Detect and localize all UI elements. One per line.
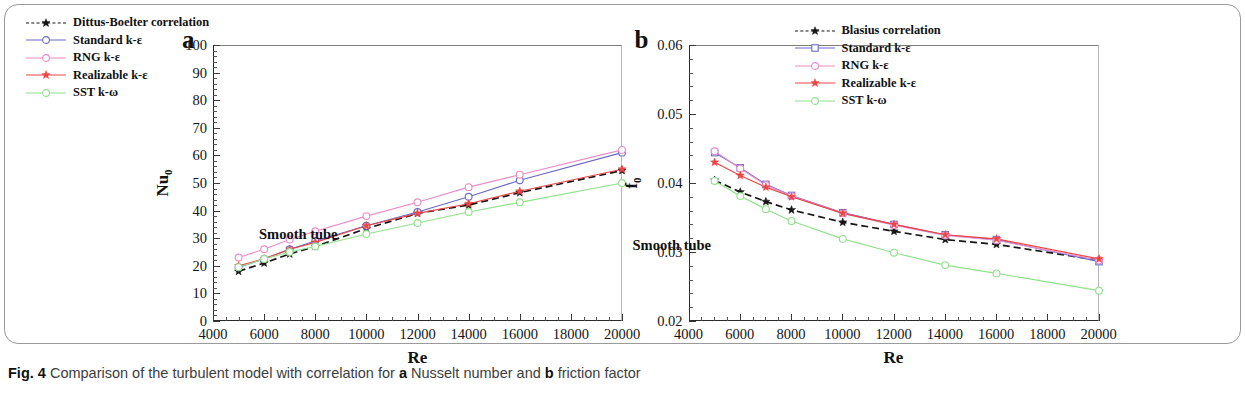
legend-marker-icon	[41, 87, 52, 98]
legend-item: Realizable k-ε	[795, 75, 941, 93]
data-point	[838, 218, 846, 226]
data-point	[516, 171, 523, 178]
legend-label: Standard k-ε	[842, 41, 911, 56]
figure-panels: a 0102030405060708090100 400060008000100…	[4, 4, 1241, 344]
x-tick-label: 8000	[777, 326, 806, 343]
x-tick-label: 20000	[1080, 326, 1116, 343]
data-point	[43, 37, 50, 44]
legend-item: RNG k-ε	[26, 49, 209, 67]
y-tick-label: 0	[200, 313, 207, 330]
data-point	[762, 206, 769, 213]
legend-a: Dittus-Boelter correlationStandard k-εRN…	[26, 14, 209, 102]
y-tick-label: 50	[193, 175, 208, 192]
data-point	[890, 249, 897, 256]
data-point	[736, 171, 744, 179]
data-point	[810, 26, 818, 34]
y-axis-title-a-sub: 0	[162, 169, 174, 175]
data-point	[363, 231, 370, 238]
panel-a: a 0102030405060708090100 400060008000100…	[4, 4, 623, 344]
y-axis-title-a-main: Nu	[153, 175, 172, 197]
legend-label: RNG k-ε	[73, 50, 120, 65]
legend-item: SST k-ω	[795, 92, 941, 110]
data-point	[811, 97, 818, 104]
series-line	[714, 181, 1098, 291]
data-point	[839, 235, 846, 242]
y-axis-title-b-sub: 0	[631, 177, 643, 183]
legend-label: Realizable k-ε	[842, 76, 916, 91]
figure-page: a 0102030405060708090100 400060008000100…	[0, 0, 1245, 406]
legend-swatch	[795, 94, 835, 108]
series-line	[239, 171, 622, 272]
legend-swatch	[795, 24, 835, 38]
y-tick-label: 40	[193, 202, 208, 219]
legend-marker-icon	[809, 25, 820, 36]
data-point	[43, 54, 50, 61]
legend-marker-icon	[809, 95, 820, 106]
caption-body-b: friction factor	[558, 365, 641, 381]
y-axis-title-b-main: f	[621, 183, 640, 189]
caption-marker-b: b	[545, 365, 554, 381]
legend-swatch	[26, 51, 66, 65]
legend-marker-icon	[809, 43, 820, 54]
series-line	[714, 180, 1098, 260]
legend-label: Realizable k-ε	[73, 68, 147, 83]
y-tick-label: 0.06	[657, 37, 682, 54]
panel-b: b 0.020.030.040.050.06 40006000800010000…	[623, 4, 1242, 344]
legend-swatch	[26, 86, 66, 100]
series-line	[239, 153, 622, 268]
data-point	[235, 264, 242, 271]
x-tick-label: 6000	[250, 326, 279, 343]
legend-marker-icon	[41, 17, 52, 28]
data-point	[516, 199, 523, 206]
data-point	[414, 199, 421, 206]
data-point	[993, 270, 1000, 277]
caption-body-a: Nusselt number and	[411, 365, 541, 381]
series-plot-a	[213, 45, 622, 321]
legend-item: RNG k-ε	[795, 57, 941, 75]
x-tick-label: 10000	[348, 326, 384, 343]
y-tick-label: 20	[193, 257, 208, 274]
panel-b-letter: b	[635, 27, 649, 52]
figure-caption: Fig. 4 Comparison of the turbulent model…	[8, 364, 1108, 384]
data-point	[235, 254, 242, 261]
x-tick-label: 16000	[502, 326, 538, 343]
legend-b: Blasius correlationStandard k-εRNG k-εRe…	[795, 22, 941, 110]
x-tick-label: 8000	[301, 326, 330, 343]
x-tick-label: 14000	[927, 326, 963, 343]
y-axis-title-a: Nu0	[153, 169, 174, 196]
y-tick-label: 0.02	[657, 313, 682, 330]
data-point	[414, 220, 421, 227]
legend-marker-icon	[809, 78, 820, 89]
x-tick-label: 6000	[725, 326, 754, 343]
data-point	[286, 249, 293, 256]
legend-item: Standard k-ε	[795, 40, 941, 58]
y-axis-title-b: f0	[621, 177, 642, 188]
plot-area-a: 0102030405060708090100 40006000800010000…	[213, 45, 622, 321]
y-tick-label: 0.04	[657, 175, 682, 192]
y-tick	[213, 321, 220, 322]
data-point	[811, 45, 817, 51]
data-point	[312, 243, 319, 250]
caption-body: Comparison of the turbulent model with c…	[50, 365, 395, 381]
data-point	[465, 184, 472, 191]
data-point	[363, 213, 370, 220]
x-tick-label: 14000	[451, 326, 487, 343]
legend-item: Dittus-Boelter correlation	[26, 14, 209, 32]
data-point	[787, 206, 795, 214]
data-point	[465, 209, 472, 216]
legend-marker-icon	[41, 52, 52, 63]
legend-marker-icon	[41, 70, 52, 81]
legend-swatch	[26, 33, 66, 47]
x-tick-label: 4000	[674, 326, 703, 343]
y-tick-label: 60	[193, 147, 208, 164]
x-tick-label: 18000	[553, 326, 589, 343]
data-point	[788, 218, 795, 225]
x-tick-label: 12000	[875, 326, 911, 343]
x-tick-label: 10000	[824, 326, 860, 343]
data-point	[42, 18, 50, 26]
legend-swatch	[26, 16, 66, 30]
data-point	[711, 148, 718, 155]
caption-marker-a: a	[399, 365, 407, 381]
legend-marker-icon	[41, 35, 52, 46]
data-point	[736, 193, 743, 200]
